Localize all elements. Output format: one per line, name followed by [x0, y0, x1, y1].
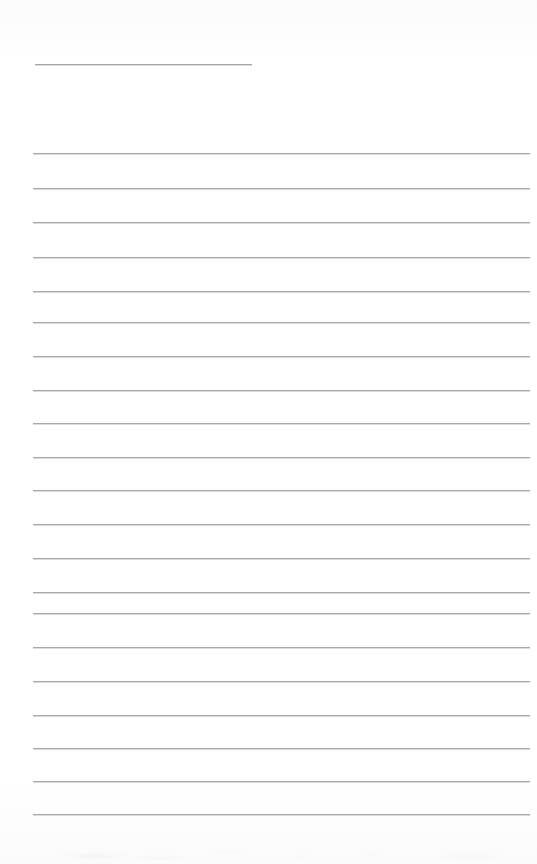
ruled-line	[33, 153, 530, 154]
ruled-line	[33, 356, 530, 357]
heading-rule	[35, 64, 252, 65]
ruled-line	[33, 257, 530, 258]
ruled-line	[33, 781, 530, 782]
ruled-line	[33, 291, 530, 292]
ruled-line	[33, 647, 530, 648]
ruled-line	[33, 188, 530, 189]
ruled-line	[33, 322, 530, 323]
ruled-line	[33, 457, 530, 458]
ruled-line	[33, 715, 530, 716]
ruled-line	[33, 592, 530, 593]
ruled-line	[33, 558, 530, 559]
ruled-line	[33, 748, 530, 749]
ruled-line	[33, 681, 530, 682]
ruled-line	[33, 423, 530, 424]
scan-artifact-overlay	[0, 812, 537, 864]
ruled-line	[33, 613, 530, 614]
ruled-line	[33, 222, 530, 223]
notepaper-page	[0, 0, 537, 864]
ruled-line	[33, 390, 530, 391]
ruled-line	[33, 524, 530, 525]
ruled-line	[33, 814, 530, 815]
ruled-line	[33, 490, 530, 491]
paper-texture-overlay	[0, 0, 537, 864]
